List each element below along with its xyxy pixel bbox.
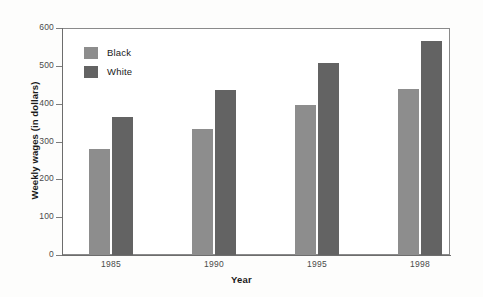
- bar-white-1990: [215, 90, 236, 255]
- bar-black-1985: [89, 149, 110, 255]
- y-axis-tick-labels: 0100200300400500600: [12, 0, 54, 297]
- legend-swatch-icon: [84, 66, 98, 78]
- legend-item-black: Black: [84, 43, 132, 62]
- bar-white-1985: [112, 117, 133, 255]
- y-tick-label: 600: [22, 22, 54, 32]
- bar-black-1990: [192, 129, 213, 255]
- y-tick-label: 0: [22, 249, 54, 259]
- legend-swatch-icon: [84, 47, 98, 59]
- y-tick-label: 300: [22, 136, 54, 146]
- bar-white-1998: [421, 41, 442, 255]
- y-tick-label: 200: [22, 173, 54, 183]
- y-tick-label: 400: [22, 98, 54, 108]
- y-tick-label: 500: [22, 60, 54, 70]
- bar-black-1998: [398, 89, 419, 255]
- bar-black-1995: [295, 105, 316, 255]
- x-tick-label: 1998: [390, 259, 450, 269]
- bar-white-1995: [318, 63, 339, 255]
- legend-item-white: White: [84, 62, 132, 81]
- x-axis-title: Year: [0, 274, 483, 285]
- y-tick-label: 100: [22, 211, 54, 221]
- x-tick-label: 1985: [81, 259, 141, 269]
- x-axis-line: [62, 255, 451, 256]
- legend: BlackWhite: [84, 43, 132, 81]
- chart-page: Weekly wages (in dollars) 01002003004005…: [0, 0, 483, 297]
- legend-label: Black: [107, 47, 131, 58]
- x-tick-label: 1990: [184, 259, 244, 269]
- x-tick-label: 1995: [287, 259, 347, 269]
- legend-label: White: [107, 66, 132, 77]
